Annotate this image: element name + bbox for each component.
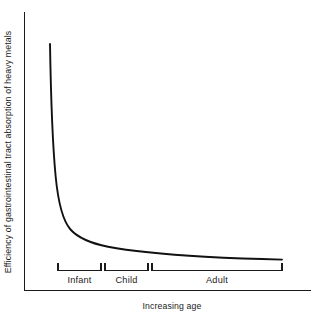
bracket-adult [152, 263, 282, 271]
bracket-infant [58, 263, 101, 271]
y-axis-label: Efficiency of gastrointestinal tract abs… [3, 30, 13, 273]
decay-curve-chart: Infant Child Adult Increasing age Effici… [0, 0, 315, 318]
chart-figure: Infant Child Adult Increasing age Effici… [0, 0, 315, 318]
bracket-child [105, 263, 148, 271]
x-axis-label: Increasing age [142, 301, 201, 311]
group-label-adult: Adult [206, 275, 228, 285]
group-label-child: Child [116, 275, 138, 285]
group-label-infant: Infant [67, 275, 91, 285]
absorption-curve [50, 44, 282, 260]
